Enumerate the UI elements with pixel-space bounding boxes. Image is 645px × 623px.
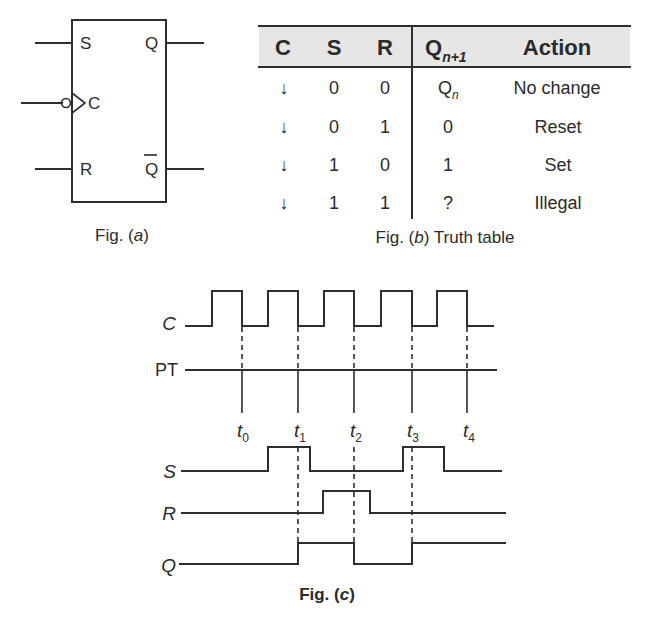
r-waveform — [182, 491, 505, 513]
time-label-t3: t3 — [407, 420, 419, 445]
cell-r: 1 — [380, 193, 390, 213]
fig-c-caption: Fig. (c) — [299, 585, 355, 604]
cell-c: ↓ — [280, 155, 289, 175]
cell-q-next: 0 — [443, 117, 453, 137]
r-pin-label: R — [80, 160, 92, 179]
cell-q-next: ? — [443, 193, 453, 213]
clock-waveform — [186, 291, 493, 326]
cell-s: 0 — [329, 78, 339, 98]
table-row: ↓ 1 1 ? Illegal — [280, 193, 582, 213]
header-c: C — [275, 35, 291, 60]
cell-action: Set — [544, 155, 571, 175]
header-r: R — [377, 35, 393, 60]
header-s: S — [327, 35, 342, 60]
cell-c: ↓ — [280, 193, 289, 213]
truth-table: C S R Qn+1 Action ↓ 0 0 Qn No change ↓ 0… — [259, 26, 630, 218]
signal-label-r: R — [162, 503, 176, 524]
signal-label-pt: PT — [155, 360, 178, 380]
clock-triangle-icon — [72, 93, 85, 113]
table-row: ↓ 1 0 1 Set — [280, 155, 572, 175]
cell-q-next: 1 — [443, 155, 453, 175]
s-pin-label: S — [80, 34, 91, 53]
fig-a-caption: Fig. (a) — [95, 226, 149, 245]
header-action: Action — [523, 35, 591, 60]
time-label-t4: t4 — [463, 420, 475, 445]
cell-c: ↓ — [280, 117, 289, 137]
signal-label-q: Q — [161, 555, 176, 576]
time-label-t2: t2 — [350, 420, 362, 445]
cell-c: ↓ — [280, 78, 289, 98]
diagram-canvas: S C R Q Q Fig. (a) C S R Qn+1 Action ↓ 0… — [0, 0, 645, 623]
timing-diagram: C PT S R Q t0 t1 t2 t3 t4 — [155, 291, 505, 576]
q-waveform — [180, 543, 505, 564]
cell-s: 0 — [329, 117, 339, 137]
cell-s: 1 — [329, 155, 339, 175]
cell-r: 0 — [380, 155, 390, 175]
cell-q-next: Qn — [438, 78, 459, 102]
cell-r: 0 — [380, 78, 390, 98]
table-row: ↓ 0 1 0 Reset — [280, 117, 582, 137]
fig-b-caption: Fig. (b) Truth table — [376, 228, 515, 247]
cell-r: 1 — [380, 117, 390, 137]
cell-action: Illegal — [534, 193, 581, 213]
table-row: ↓ 0 0 Qn No change — [280, 78, 601, 102]
signal-label-c: C — [162, 313, 176, 334]
time-label-t0: t0 — [237, 420, 249, 445]
cell-action: Reset — [534, 117, 581, 137]
flip-flop-symbol: S C R Q Q — [22, 20, 203, 202]
s-waveform — [182, 447, 501, 471]
time-label-t1: t1 — [294, 420, 306, 445]
signal-label-s: S — [163, 461, 176, 482]
q-pin-label: Q — [145, 34, 158, 53]
c-pin-label: C — [88, 94, 100, 113]
cell-action: No change — [513, 78, 600, 98]
qbar-pin-label: Q — [145, 160, 158, 179]
cell-s: 1 — [329, 193, 339, 213]
